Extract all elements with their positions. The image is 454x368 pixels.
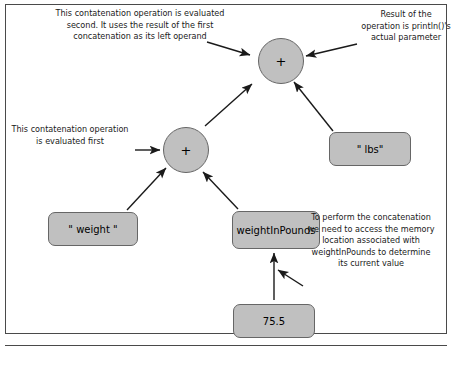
pointer-ptr_access_to_box: [278, 270, 303, 286]
diagram-edges-layer: [0, 0, 454, 368]
annotation-annot_second: This contatenation operation is evaluate…: [54, 8, 226, 43]
annotation-annot_access: To perform the concatenation we need to …: [306, 212, 436, 270]
diagram-page: ++" lbs"" weight "weightInPounds75.5 Thi…: [0, 0, 454, 368]
pointer-ptr_second_to_top: [207, 42, 250, 55]
annotation-annot_first: This contatenation operation is evaluate…: [10, 124, 130, 147]
edge-e2-lbs_literal-to-plus_top: [294, 82, 333, 131]
pointer-ptr_result_to_top: [306, 44, 357, 56]
node-plus_lower: +: [163, 127, 209, 173]
tree-edges: [127, 82, 333, 300]
edge-e1-plus_lower-to-plus_top: [205, 84, 252, 126]
edge-e4-weight_in_pounds-to-plus_lower: [203, 172, 238, 209]
edge-e3-weight_literal-to-plus_lower: [127, 168, 166, 210]
node-value_75_5: 75.5: [233, 304, 315, 338]
node-plus_top: +: [258, 38, 304, 84]
node-lbs_literal: " lbs": [329, 132, 411, 166]
node-weight_literal: " weight ": [48, 212, 138, 246]
annotation-annot_result: Result of the operation is println()'s a…: [360, 9, 452, 44]
